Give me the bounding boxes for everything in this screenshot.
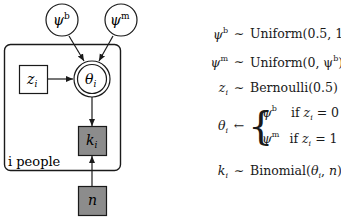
case-1: ψb if zi = 0 — [262, 104, 339, 122]
case-2: ψm if zi = 1 — [262, 130, 338, 148]
edge-psim-theta — [99, 36, 113, 61]
plate-label: i people — [8, 154, 61, 169]
equations-panel: ψb ∼ Uniform(0.5, 1) ψm ∼ Uniform(0, ψb)… — [190, 0, 341, 221]
label-n: n — [88, 192, 97, 208]
graphical-model: ψb ψm zi θi ki n i people — [0, 0, 190, 221]
edge-psib-theta — [69, 36, 84, 61]
